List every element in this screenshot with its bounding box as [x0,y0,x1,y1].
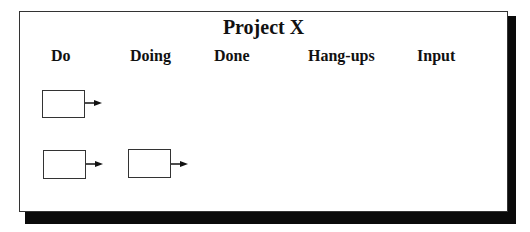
board-title: Project X [20,15,507,39]
column-header-do: Do [51,46,71,66]
column-header-done: Done [214,46,250,66]
column-header-hang-ups: Hang-ups [308,46,375,66]
kanban-board: Project X Do Doing Done Hang-ups Input [19,11,508,212]
task-card-do-1[interactable] [42,90,85,118]
column-header-input: Input [417,46,455,66]
arrow-right-icon [85,99,103,107]
arrow-right-icon [86,160,104,168]
arrow-right-icon [171,160,189,168]
task-card-doing-1[interactable] [128,149,171,178]
task-card-do-2[interactable] [43,150,86,179]
column-header-doing: Doing [130,46,171,66]
